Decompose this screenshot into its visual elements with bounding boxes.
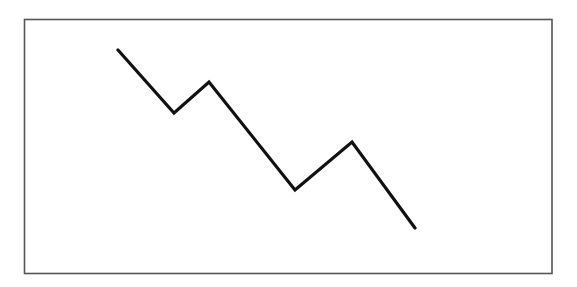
diagram-frame [25, 20, 553, 274]
diagram-canvas [0, 0, 577, 287]
